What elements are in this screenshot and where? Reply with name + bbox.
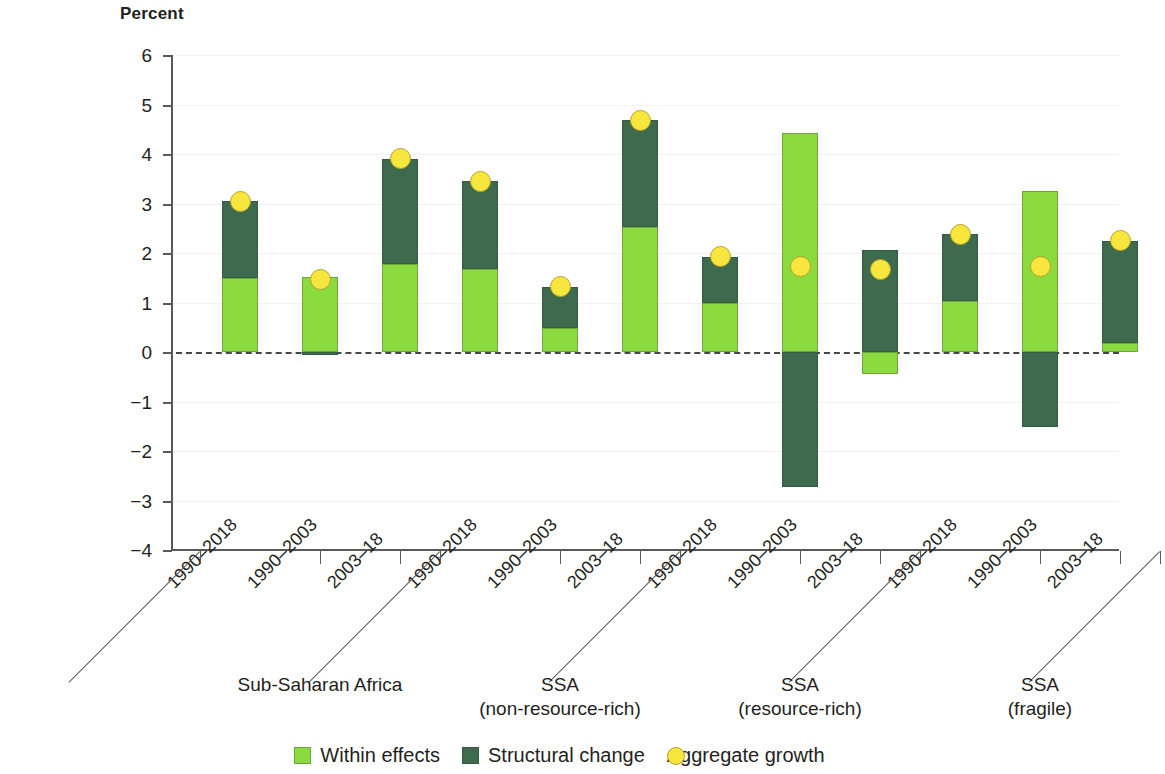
y-tick-label: −3: [112, 491, 152, 510]
gridline: [172, 451, 1119, 452]
bar-segment-within-effects: [542, 328, 578, 352]
y-tick-mark: [163, 105, 172, 107]
legend-item[interactable]: Within effects: [294, 744, 440, 767]
y-tick-mark: [163, 55, 172, 57]
aggregate-growth-marker: [470, 171, 491, 192]
x-group-label: SSA (non-resource-rich): [430, 673, 690, 721]
bar-segment-within-effects: [222, 278, 258, 352]
x-axis-line: [171, 549, 1119, 551]
chart-legend: Within effectsStructural changeAggregate…: [0, 744, 1119, 767]
aggregate-growth-marker: [390, 148, 411, 169]
legend-item-label: Aggregate growth: [667, 744, 825, 767]
y-tick-label: 6: [112, 46, 152, 65]
x-tick-mark: [200, 551, 201, 564]
group-separator-line: [548, 551, 680, 683]
x-tick-mark: [400, 551, 401, 564]
bar-segment-structural-change: [302, 352, 338, 355]
y-tick-mark: [163, 154, 172, 156]
y-tick-label: −4: [112, 541, 152, 560]
y-tick-mark: [163, 352, 172, 354]
y-tick-label: 3: [112, 194, 152, 213]
y-tick-mark: [163, 402, 172, 404]
x-tick-mark: [1040, 551, 1041, 564]
bar-segment-within-effects: [382, 264, 418, 352]
circle-marker-icon: [667, 747, 685, 765]
bar-segment-within-effects: [862, 352, 898, 374]
legend-item-label: Within effects: [320, 744, 440, 767]
aggregate-growth-marker: [550, 276, 571, 297]
aggregate-growth-marker: [1110, 230, 1131, 251]
x-group-label: SSA (fragile): [910, 673, 1165, 721]
y-tick-label: 0: [112, 343, 152, 362]
x-tick-mark: [560, 551, 561, 564]
legend-item[interactable]: Aggregate growth: [667, 744, 825, 767]
bar-segment-structural-change: [382, 159, 418, 264]
group-separator-line: [1028, 551, 1160, 683]
y-tick-label: 1: [112, 293, 152, 312]
x-tick-mark: [920, 551, 921, 564]
aggregate-growth-marker: [630, 110, 651, 131]
x-tick-mark: [800, 551, 801, 564]
bar-segment-structural-change: [222, 201, 258, 278]
bar-segment-structural-change: [622, 120, 658, 227]
x-tick-mark: [880, 551, 881, 564]
y-tick-mark: [163, 253, 172, 255]
gridline: [172, 105, 1119, 106]
x-tick-mark: [680, 551, 681, 564]
legend-item-label: Structural change: [488, 744, 645, 767]
x-group-label: Sub-Saharan Africa: [190, 673, 450, 697]
square-swatch-icon: [462, 747, 479, 764]
y-tick-mark: [163, 501, 172, 503]
bar-segment-within-effects: [782, 133, 818, 352]
y-tick-label: 4: [112, 145, 152, 164]
legend-item[interactable]: Structural change: [462, 744, 645, 767]
bar-segment-within-effects: [462, 269, 498, 352]
bar-segment-within-effects: [702, 303, 738, 352]
aggregate-growth-marker: [230, 191, 251, 212]
x-tick-mark: [1120, 551, 1121, 564]
group-separator-line: [788, 551, 920, 683]
y-axis-title: Percent: [120, 4, 184, 24]
group-separator-line: [308, 551, 440, 683]
aggregate-growth-marker: [710, 246, 731, 267]
y-tick-mark: [163, 451, 172, 453]
x-tick-mark: [1160, 551, 1161, 564]
x-tick-mark: [640, 551, 641, 564]
y-tick-label: −2: [112, 442, 152, 461]
bar-segment-within-effects: [1102, 343, 1138, 352]
gridline: [172, 501, 1119, 502]
x-group-label: SSA (resource-rich): [670, 673, 930, 721]
bar-segment-structural-change: [782, 352, 818, 487]
y-tick-mark: [163, 550, 172, 552]
bar-segment-structural-change: [462, 181, 498, 269]
group-separator-line: [68, 551, 200, 683]
bar-segment-within-effects: [622, 227, 658, 352]
y-tick-mark: [163, 303, 172, 305]
y-tick-label: −1: [112, 392, 152, 411]
bar-segment-structural-change: [1022, 352, 1058, 427]
aggregate-growth-marker: [1030, 256, 1051, 277]
aggregate-growth-marker: [950, 224, 971, 245]
x-tick-mark: [440, 551, 441, 564]
aggregate-growth-marker: [870, 259, 891, 280]
aggregate-growth-marker: [310, 269, 331, 290]
bar-segment-structural-change: [1102, 241, 1138, 343]
y-tick-label: 5: [112, 95, 152, 114]
y-tick-mark: [163, 204, 172, 206]
x-tick-mark: [320, 551, 321, 564]
gridline: [172, 402, 1119, 403]
gridline: [172, 55, 1119, 56]
bar-segment-within-effects: [942, 301, 978, 352]
aggregate-growth-marker: [790, 256, 811, 277]
square-swatch-icon: [294, 747, 311, 764]
y-tick-label: 2: [112, 244, 152, 263]
